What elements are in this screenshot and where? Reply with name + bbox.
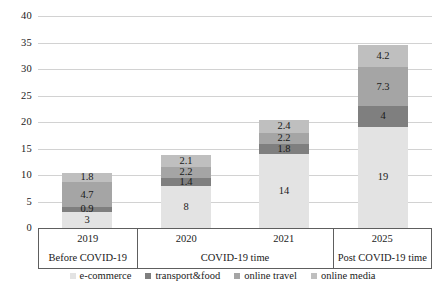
bar-segment-online-media[interactable]: 4.2 [358,45,408,67]
bar-segment-e-commerce[interactable]: 8 [161,186,211,228]
bar-segment-transport-food[interactable]: 1.8 [259,144,309,154]
legend-swatch-icon [70,273,76,279]
bar-segment-e-commerce[interactable]: 19 [358,127,408,228]
legend-label: online travel [244,271,297,282]
x-axis-period-label: Before COVID-19 [39,249,137,269]
y-axis-tick-label: 5 [6,196,32,207]
x-axis-year-row: 2025 [334,229,432,249]
gridline [38,16,432,17]
gridline [38,43,432,44]
y-axis-tick-label: 15 [6,143,32,154]
bar-segment-online-travel[interactable]: 7.3 [358,67,408,106]
x-axis-group: 2019Before COVID-19 [39,229,137,268]
bar-segment-e-commerce[interactable]: 3 [62,212,112,228]
bar-segment-value-label: 2.4 [277,121,290,132]
y-axis-tick-label: 35 [6,37,32,48]
legend-item[interactable]: online media [311,271,376,282]
bar-segment-transport-food[interactable]: 4 [358,106,408,127]
bar-segment-value-label: 4.2 [376,51,389,62]
y-axis-tick-label: 25 [6,90,32,101]
y-axis-tick-label: 40 [6,11,32,22]
y-axis-tick-label: 0 [6,223,32,234]
x-axis-year-label: 2020 [138,229,236,249]
y-axis-tick-label: 10 [6,170,32,181]
x-axis-year-row: 2019 [39,229,137,249]
bar-segment-value-label: 1.8 [80,172,93,183]
x-axis-group: 2025Post COVID-19 time [333,229,432,268]
bar-segment-online-media[interactable]: 2.4 [259,120,309,133]
bar-segment-online-media[interactable]: 1.8 [62,173,112,183]
bar-segment-transport-food[interactable]: 1.4 [161,178,211,185]
bar-segment-e-commerce[interactable]: 14 [259,154,309,228]
plot-area: 1.84.70.932.12.21.482.42.21.8144.27.3419 [38,16,432,228]
bar-2020[interactable]: 2.12.21.48 [161,155,211,228]
bar-segment-value-label: 3 [84,215,89,226]
bar-segment-value-label: 4.7 [80,190,93,201]
y-axis-tick-label: 20 [6,117,32,128]
legend-label: e-commerce [80,271,132,282]
bar-2021[interactable]: 2.42.21.814 [259,120,309,228]
x-axis-year-label: 2021 [235,229,333,249]
bar-segment-value-label: 8 [183,202,188,213]
bar-segment-value-label: 19 [378,172,389,183]
legend-swatch-icon [311,273,317,279]
bar-2025[interactable]: 4.27.3419 [358,45,408,228]
stacked-bar-chart: 0510152025303540 1.84.70.932.12.21.482.4… [0,0,445,295]
x-axis-year-row: 20202021 [138,229,333,249]
x-axis-year-label: 2019 [39,229,137,249]
legend-item[interactable]: e-commerce [70,271,132,282]
bar-segment-value-label: 2.1 [179,156,192,167]
x-axis: 2019Before COVID-1920202021COVID-19 time… [38,228,432,269]
y-axis-tick-label: 30 [6,64,32,75]
bar-2019[interactable]: 1.84.70.93 [62,173,112,228]
x-axis-year-label: 2025 [334,229,432,249]
legend-label: online media [321,271,376,282]
bar-segment-value-label: 1.8 [277,144,290,155]
x-axis-period-label: COVID-19 time [138,249,333,269]
bar-segment-value-label: 4 [380,111,385,122]
x-axis-group: 20202021COVID-19 time [137,229,333,268]
bar-segment-value-label: 14 [279,186,290,197]
x-axis-period-label: Post COVID-19 time [334,249,432,269]
legend-swatch-icon [145,273,151,279]
legend-item[interactable]: online travel [234,271,297,282]
legend-item[interactable]: transport&food [145,271,220,282]
chart-legend: e-commercetransport&foodonline travelonl… [0,271,445,282]
legend-swatch-icon [234,273,240,279]
bar-segment-online-media[interactable]: 2.1 [161,155,211,166]
bar-segment-value-label: 7.3 [376,82,389,93]
legend-label: transport&food [155,271,220,282]
